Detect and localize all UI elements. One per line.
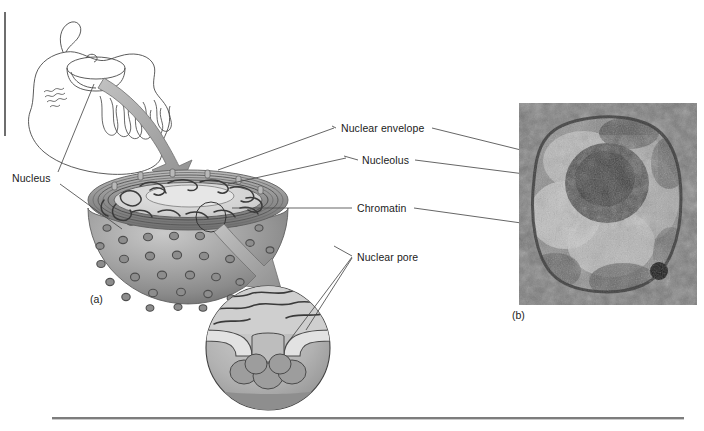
leader-envelope-left	[218, 128, 334, 170]
nucleus-figure: Nucleus Nuclear envelope Nucleolus Chrom…	[0, 0, 704, 431]
leader-nucleus-to-cell	[58, 84, 94, 172]
electron-micrograph-panel-b	[519, 103, 697, 305]
leader-envelope-right	[432, 128, 529, 152]
leader-pore-lower	[306, 258, 352, 330]
panel-label-b: (b)	[512, 309, 525, 321]
leader-pore-upper	[334, 246, 352, 256]
label-nucleus: Nucleus	[12, 172, 51, 184]
label-nuclear-pore: Nuclear pore	[357, 251, 418, 263]
cell-outline-icon	[29, 22, 172, 175]
panel-label-a: (a)	[90, 293, 103, 305]
label-nuclear-envelope: Nuclear envelope	[341, 122, 424, 134]
bottom-rule	[52, 417, 684, 419]
label-nucleolus: Nucleolus	[362, 154, 409, 166]
leader-nucleolus-left	[228, 158, 346, 184]
micrograph-image	[519, 103, 697, 305]
nuclear-pore-inset	[206, 286, 330, 412]
label-chromatin: Chromatin	[357, 202, 406, 214]
